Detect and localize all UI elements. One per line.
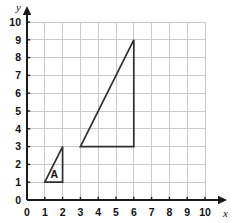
x-axis-label: x — [223, 208, 228, 219]
y-axis-tick-label: 0 — [15, 195, 21, 206]
y-axis-label: y — [16, 2, 21, 13]
y-axis-tick-label: 1 — [15, 177, 21, 188]
y-axis-tick-label: 8 — [15, 52, 21, 63]
y-axis-arrowhead — [23, 6, 31, 15]
y-axis-tick-label: 4 — [15, 124, 21, 135]
coordinate-plane — [0, 0, 234, 223]
y-axis-tick-label: 5 — [15, 106, 21, 117]
y-axis-tick-label: 9 — [15, 35, 21, 46]
y-axis-tick-label: 6 — [15, 88, 21, 99]
x-axis-tick-label: 10 — [195, 207, 215, 218]
y-axis-tick-label: 2 — [15, 159, 21, 170]
y-axis-tick-label: 3 — [15, 141, 21, 152]
coordinate-grid-figure: 012345678910012345678910yxA — [0, 0, 234, 223]
y-axis-tick-label: 10 — [9, 17, 21, 28]
shape-label-a: A — [51, 169, 59, 180]
x-axis-arrowhead — [218, 196, 227, 204]
y-axis-tick-label: 7 — [15, 70, 21, 81]
